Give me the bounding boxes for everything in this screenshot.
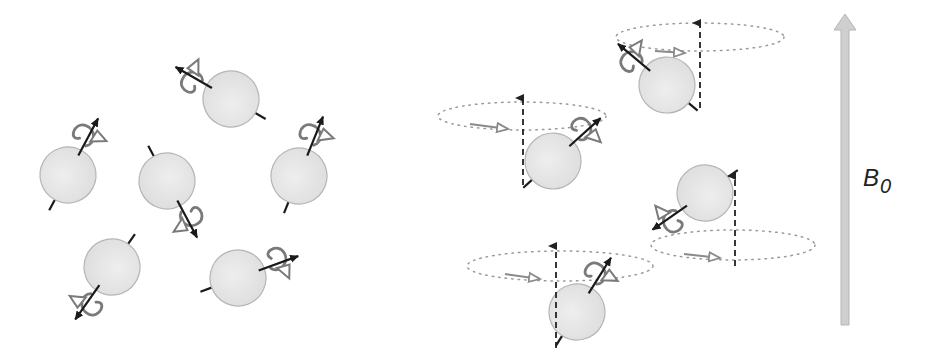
- nucleus-sphere: [30, 137, 106, 213]
- precessing-spin-group-3: [637, 147, 815, 266]
- nucleus-sphere: [513, 121, 592, 200]
- random-spin-1: [24, 105, 122, 223]
- precessing-spin-group-4: [467, 243, 653, 361]
- left-panel-random-spins: [24, 43, 348, 336]
- precession-direction-arrow-icon: [655, 51, 685, 53]
- field-label-subscript: 0: [880, 175, 891, 197]
- precession-direction-arrow-icon: [505, 274, 540, 279]
- random-spin-5: [52, 218, 158, 335]
- precession-direction-arrow-icon: [684, 254, 720, 258]
- aligned-spin-3: [637, 147, 754, 253]
- precessing-spin-group-1: [438, 97, 619, 208]
- aligned-spin-2: [600, 22, 716, 132]
- random-spin-3: [123, 133, 221, 251]
- nmr-spin-diagram: [0, 0, 925, 364]
- rotation-arrowhead-icon: [651, 201, 670, 220]
- precession-path: [438, 102, 606, 130]
- nucleus-sphere: [538, 273, 615, 350]
- field-arrow-icon: [834, 14, 856, 325]
- random-spin-6: [191, 230, 308, 318]
- field-label-main: B: [863, 164, 879, 191]
- b0-field-label: B0: [863, 166, 890, 190]
- precession-direction-arrow-icon: [470, 124, 508, 129]
- nucleus-sphere: [73, 228, 151, 306]
- precession-path: [651, 230, 815, 260]
- precession-path: [467, 251, 653, 281]
- precessing-spin-group-2: [600, 22, 784, 132]
- rotation-arrowhead-icon: [277, 264, 294, 282]
- random-spin-2: [162, 43, 280, 143]
- rotation-arrowhead-icon: [170, 218, 188, 236]
- aligned-spin-1: [505, 97, 620, 208]
- nucleus-sphere: [202, 242, 274, 314]
- rotation-arrowhead-icon: [585, 129, 604, 148]
- nucleus-sphere: [263, 140, 336, 213]
- random-spin-4: [258, 106, 349, 223]
- aligned-spin-4: [532, 243, 635, 361]
- right-panel-precessing-spins: [438, 22, 815, 360]
- b0-field-arrow: [834, 14, 856, 325]
- nucleus-sphere: [193, 61, 269, 137]
- rotation-arrowhead-icon: [629, 37, 648, 56]
